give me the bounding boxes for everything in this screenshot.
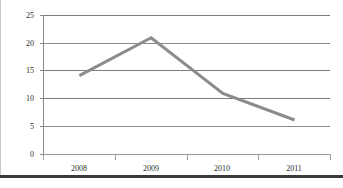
- y-axis-label-20: 20: [8, 39, 34, 48]
- y-axis-label-0: 0: [8, 150, 34, 159]
- chart-plot-area: [0, 0, 343, 188]
- y-axis-label-5: 5: [8, 122, 34, 131]
- y-axis-label-25: 25: [8, 11, 34, 20]
- y-axis-label-15: 15: [8, 66, 34, 75]
- x-axis-label-2009: 2009: [126, 164, 176, 173]
- chart-frame-bottom-edge: [0, 175, 343, 178]
- x-axis-label-2008: 2008: [54, 164, 104, 173]
- data-series-line: [79, 38, 294, 120]
- x-axis-label-2011: 2011: [269, 164, 319, 173]
- x-axis-label-2010: 2010: [197, 164, 247, 173]
- y-axis-label-10: 10: [8, 94, 34, 103]
- line-chart: 25 20 15 10 5 0 2008 2009 2010 2011: [0, 0, 343, 188]
